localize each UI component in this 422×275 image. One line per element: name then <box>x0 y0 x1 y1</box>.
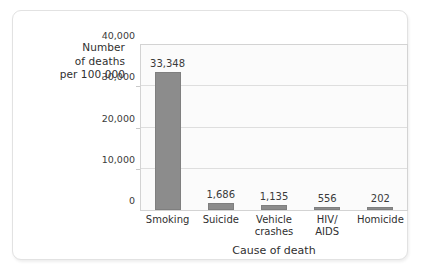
y-axis-tick-mark <box>136 86 140 87</box>
x-axis-ticks: SmokingSuicideVehiclecrashesHIV/AIDSHomi… <box>141 214 407 244</box>
bar-value-label: 1,135 <box>260 191 289 202</box>
y-axis-tick-label: 0 <box>89 196 135 206</box>
x-axis-tick-label-line: Smoking <box>141 214 194 226</box>
bar-group[interactable]: 556 <box>301 45 354 210</box>
bar-value-label: 1,686 <box>206 189 235 200</box>
y-axis-tick-label: 40,000 <box>89 31 135 41</box>
x-axis-tick-label: Vehiclecrashes <box>247 214 300 237</box>
x-axis-tick-label: Homicide <box>354 214 407 226</box>
y-axis-tick-mark <box>136 128 140 129</box>
x-axis-tick-label-line: HIV/ <box>301 214 354 226</box>
bar-group[interactable]: 33,348 <box>141 45 194 210</box>
y-axis-tick-label: 20,000 <box>89 114 135 124</box>
bar-group[interactable]: 202 <box>354 45 407 210</box>
x-axis-tick-label-line: AIDS <box>301 226 354 238</box>
bar-value-label: 556 <box>318 193 337 204</box>
x-axis-tick-label-line: crashes <box>247 226 300 238</box>
x-axis-tick-label: HIV/AIDS <box>301 214 354 237</box>
bar-value-label: 202 <box>371 193 390 204</box>
y-axis-ticks: 010,00020,00030,00040,000 <box>85 44 135 211</box>
bar[interactable] <box>208 203 234 210</box>
x-axis-tick-label-line: Suicide <box>194 214 247 226</box>
y-axis-tick-label: 10,000 <box>89 155 135 165</box>
x-axis-title: Cause of death <box>141 244 407 257</box>
bar-series: 33,3481,6861,135556202 <box>141 45 407 210</box>
x-axis-tick-label-line: Homicide <box>354 214 407 226</box>
bar-group[interactable]: 1,135 <box>247 45 300 210</box>
x-axis-tick-label: Suicide <box>194 214 247 226</box>
x-axis-tick-label: Smoking <box>141 214 194 226</box>
x-axis-tick-label-line: Vehicle <box>247 214 300 226</box>
bar[interactable] <box>261 205 287 210</box>
bar[interactable] <box>367 207 393 210</box>
bar[interactable] <box>155 72 181 210</box>
bar-value-label: 33,348 <box>150 58 185 69</box>
chart-card: Number of deaths per 100,000 010,00020,0… <box>12 10 408 260</box>
y-axis-tick-label: 30,000 <box>89 72 135 82</box>
bar-group[interactable]: 1,686 <box>194 45 247 210</box>
bar[interactable] <box>314 207 340 210</box>
y-axis-tick-mark <box>136 169 140 170</box>
